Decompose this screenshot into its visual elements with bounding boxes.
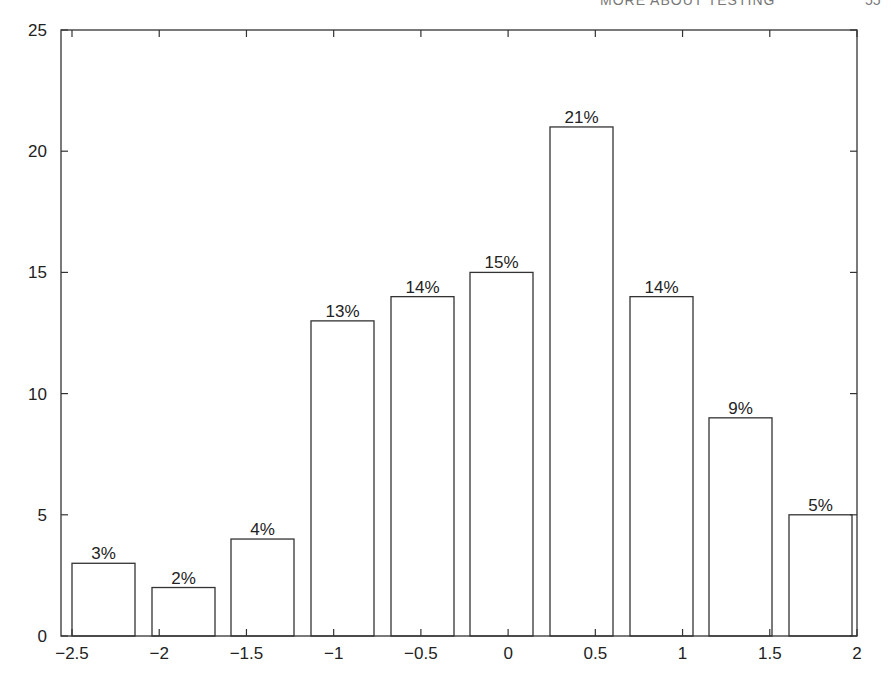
x-tick-label: −2.5 [55,644,89,663]
y-tick-label: 5 [38,506,47,525]
x-tick-label: 0.5 [584,644,608,663]
bar-label: 9% [728,399,753,418]
bar [550,127,613,636]
bar-label: 14% [644,278,678,297]
bar [789,515,852,636]
bar [311,321,374,636]
y-tick-label: 0 [38,627,47,646]
bar-label: 2% [171,569,196,588]
y-tick-label: 20 [28,142,47,161]
bar [470,272,533,636]
x-tick-label: −1.5 [230,644,264,663]
x-tick-label: 2 [852,644,861,663]
bar-label: 21% [564,108,598,127]
bar [72,563,135,636]
bar-label: 14% [405,278,439,297]
x-tick-label: −2 [150,644,169,663]
bar-label: 15% [484,253,518,272]
bars-group: 3%2%4%13%14%15%21%14%9%5% [72,108,852,636]
x-tick-label: −0.5 [404,644,438,663]
bar-label: 13% [325,302,359,321]
y-tick-label: 10 [28,385,47,404]
bar [630,297,693,636]
y-tick-label: 15 [28,263,47,282]
x-tick-label: 0 [503,644,512,663]
histogram-chart: 3%2%4%13%14%15%21%14%9%5% −2.5−2−1.5−1−0… [0,0,891,687]
bar [152,588,215,636]
bar-label: 4% [250,520,275,539]
y-tick-label: 25 [28,21,47,40]
bar-label: 3% [91,544,116,563]
bar [391,297,454,636]
bar [709,418,772,636]
x-tick-label: 1.5 [758,644,782,663]
bar [231,539,294,636]
bar-label: 5% [808,496,833,515]
x-tick-label: 1 [678,644,687,663]
x-tick-label: −1 [324,644,343,663]
